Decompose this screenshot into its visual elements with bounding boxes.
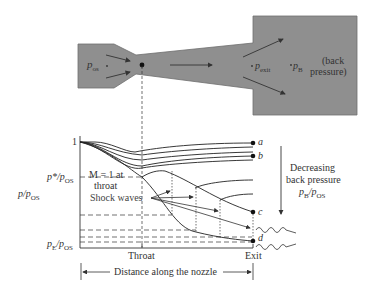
exit-pressure-label: pexit: [255, 60, 271, 76]
x-tick-exit: Exit: [245, 250, 262, 261]
back-note-1: (back: [322, 55, 344, 66]
back-pressure-label: pB: [293, 60, 303, 76]
shock-lines: [172, 171, 253, 241]
curve-end-dots: [251, 141, 256, 244]
decreasing-label-3: pB/pOS: [299, 186, 325, 202]
shock-arrows: [151, 191, 250, 228]
tick-pe: pE/pOS: [47, 238, 73, 254]
m1-label-line2: throat: [94, 180, 117, 191]
back-note-2: pressure): [310, 66, 347, 77]
curve-label-a: a: [258, 136, 263, 147]
decreasing-label-2: back pressure: [286, 174, 341, 185]
m1-label-line1: M = 1 at: [89, 169, 123, 180]
nozzle-pressure-diagram: pos pexit pB (back pressure) 1 p*/pOS p/…: [0, 0, 373, 302]
curve-label-c: c: [258, 206, 262, 217]
tick-pstar: p*/pOS: [47, 171, 74, 187]
curve-label-b: b: [258, 150, 263, 161]
distance-label: Distance along the nozzle: [114, 266, 217, 277]
x-tick-throat: Throat: [128, 250, 155, 261]
decreasing-label-1: Decreasing: [290, 162, 335, 173]
diagram-graphics: [0, 0, 373, 302]
inlet-pressure-label: pos: [87, 59, 99, 75]
tick-one: 1: [72, 136, 77, 147]
shock-waves-label: Shock waves: [90, 192, 143, 203]
y-axis-label: p/pOS: [18, 188, 40, 204]
curve-label-d: d: [258, 232, 263, 243]
